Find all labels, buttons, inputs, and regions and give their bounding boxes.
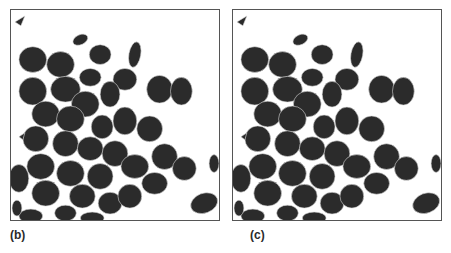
blob-field-c xyxy=(233,10,441,220)
panel-b-image xyxy=(10,9,220,221)
panel-label-c: (c) xyxy=(250,228,265,242)
panel-c-image xyxy=(232,9,442,221)
panel-label-b: (b) xyxy=(10,228,25,242)
blob-field-b xyxy=(11,10,219,220)
